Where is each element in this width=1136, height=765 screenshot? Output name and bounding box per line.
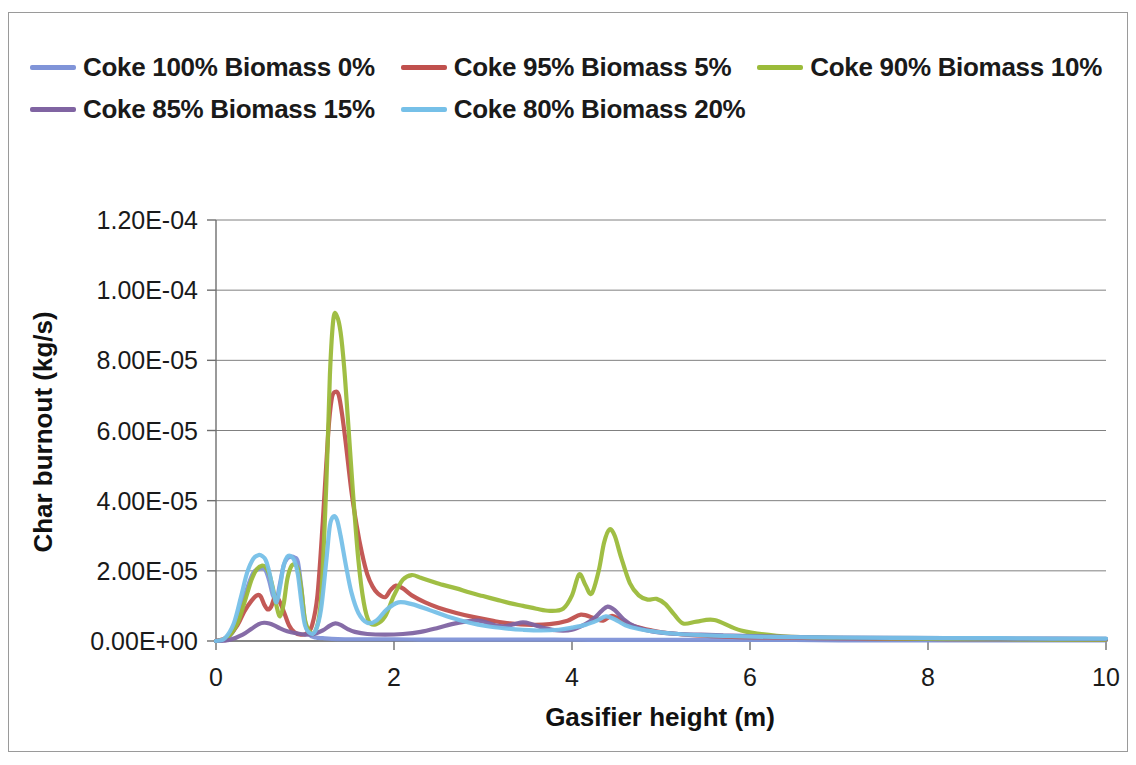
x-axis-title: Gasifier height (m) xyxy=(545,702,775,732)
line-chart-svg: 0.00E+002.00E-054.00E-056.00E-058.00E-05… xyxy=(0,0,1136,765)
axis-lines xyxy=(207,220,1106,650)
y-tick-label: 4.00E-05 xyxy=(97,487,198,515)
series-line-4 xyxy=(216,516,1106,641)
x-tick-label: 10 xyxy=(1092,663,1120,691)
y-tick-label: 1.20E-04 xyxy=(97,206,199,234)
data-series xyxy=(216,313,1106,641)
y-axis-tick-labels: 0.00E+002.00E-054.00E-056.00E-058.00E-05… xyxy=(90,206,198,655)
x-tick-label: 2 xyxy=(387,663,401,691)
y-tick-label: 6.00E-05 xyxy=(97,417,198,445)
series-line-3 xyxy=(216,607,1106,641)
x-axis-tick-labels: 0246810 xyxy=(209,663,1120,691)
x-tick-label: 8 xyxy=(921,663,935,691)
chart-container: Coke 100% Biomass 0% Coke 95% Biomass 5%… xyxy=(0,0,1136,765)
x-tick-label: 6 xyxy=(743,663,757,691)
x-tick-label: 0 xyxy=(209,663,223,691)
y-tick-label: 0.00E+00 xyxy=(90,627,198,655)
y-tick-label: 8.00E-05 xyxy=(97,346,198,374)
x-tick-label: 4 xyxy=(565,663,579,691)
y-tick-label: 1.00E-04 xyxy=(97,276,199,304)
y-axis-title: Char burnout (kg/s) xyxy=(28,311,58,552)
y-tick-label: 2.00E-05 xyxy=(97,557,198,585)
plot-area-wrapper: 0.00E+002.00E-054.00E-056.00E-058.00E-05… xyxy=(0,0,1136,765)
